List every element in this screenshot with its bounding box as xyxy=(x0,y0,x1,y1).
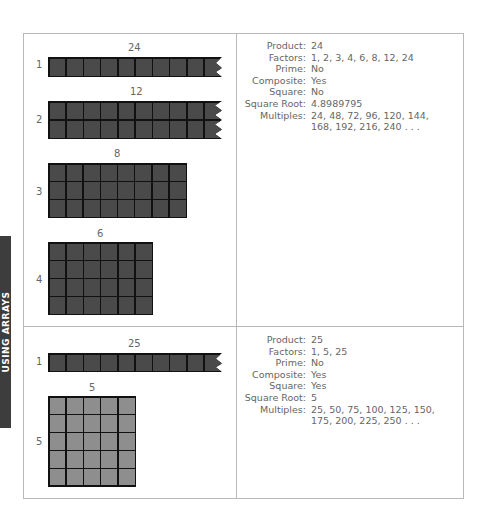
array-cell xyxy=(101,200,117,216)
square-root-value: 4.8989795 xyxy=(311,98,451,110)
array-cell xyxy=(101,415,117,431)
array-cell xyxy=(170,121,186,138)
array-4x6 xyxy=(48,242,153,315)
array-rows-label: 2 xyxy=(36,114,42,125)
array-cell xyxy=(50,165,66,181)
array-cell xyxy=(170,182,186,198)
array-cell xyxy=(136,261,152,277)
square-value: Yes xyxy=(311,380,451,392)
array-rows-label: 1 xyxy=(36,356,42,367)
array-cell xyxy=(67,103,83,120)
array-cell xyxy=(119,355,135,371)
array-cell xyxy=(50,355,66,371)
array-cell xyxy=(153,355,169,371)
array-cell xyxy=(84,59,100,76)
array-cell xyxy=(119,398,135,414)
array-cell xyxy=(118,200,134,216)
array-cell xyxy=(50,398,66,414)
array-cell xyxy=(101,398,117,414)
array-cell xyxy=(67,415,83,431)
array-cell xyxy=(84,261,100,277)
array-cell xyxy=(136,355,152,371)
array-rows-label: 1 xyxy=(36,59,42,70)
side-tab: USING ARRAYS xyxy=(0,236,11,428)
array-cell xyxy=(84,433,100,449)
array-cell xyxy=(188,103,204,120)
array-cell xyxy=(84,297,100,313)
array-cell xyxy=(170,200,186,216)
side-tab-label: USING ARRAYS xyxy=(1,291,11,372)
array-cell xyxy=(67,182,83,198)
factors-value: 1, 2, 3, 4, 6, 8, 12, 24 xyxy=(311,52,451,64)
array-rows-label: 3 xyxy=(36,186,42,197)
square-root-value: 5 xyxy=(311,392,451,404)
array-cell xyxy=(119,121,135,138)
array-cell xyxy=(119,103,135,120)
array-cell xyxy=(101,355,117,371)
product-label: Product: xyxy=(236,40,311,52)
array-cell xyxy=(50,244,66,260)
array-cell xyxy=(101,469,117,485)
multiples-value: 24, 48, 72, 96, 120, 144, 168, 192, 216,… xyxy=(311,110,451,133)
array-cell xyxy=(170,165,186,181)
array-cell xyxy=(135,200,151,216)
array-cell xyxy=(84,244,100,260)
prime-value: No xyxy=(311,63,451,75)
array-cell xyxy=(101,451,117,467)
multiples-label: Multiples: xyxy=(236,110,311,133)
array-cell xyxy=(136,297,152,313)
array-1x25 xyxy=(48,353,222,372)
product-label: Product: xyxy=(236,334,311,346)
array-cols-label: 25 xyxy=(128,338,141,349)
array-cell xyxy=(67,165,83,181)
array-cell xyxy=(101,433,117,449)
array-cell xyxy=(84,451,100,467)
array-cell xyxy=(119,433,135,449)
array-cols-label: 24 xyxy=(128,42,141,53)
array-cell xyxy=(118,182,134,198)
array-cell xyxy=(50,433,66,449)
factors-label: Factors: xyxy=(236,52,311,64)
array-cell xyxy=(136,59,152,76)
array-cell xyxy=(84,103,100,120)
array-cell xyxy=(153,59,169,76)
array-cols-label: 6 xyxy=(97,228,103,239)
array-cell xyxy=(188,355,204,371)
square-label: Square: xyxy=(236,380,311,392)
array-cell xyxy=(67,244,83,260)
array-cell xyxy=(84,415,100,431)
array-cell xyxy=(101,59,117,76)
array-cell xyxy=(101,297,117,313)
prime-value: No xyxy=(311,357,451,369)
factors-label: Factors: xyxy=(236,346,311,358)
composite-value: Yes xyxy=(311,75,451,87)
array-cell xyxy=(119,469,135,485)
array-cell xyxy=(136,244,152,260)
array-cell xyxy=(50,279,66,295)
section-divider xyxy=(23,326,464,327)
array-cell xyxy=(50,261,66,277)
array-cell xyxy=(67,200,83,216)
array-cell xyxy=(153,103,169,120)
array-cell xyxy=(101,244,117,260)
array-cell xyxy=(119,415,135,431)
array-2x12 xyxy=(48,101,222,139)
array-cols-label: 8 xyxy=(114,148,120,159)
square-root-label: Square Root: xyxy=(236,98,311,110)
square-label: Square: xyxy=(236,86,311,98)
array-cell xyxy=(101,121,117,138)
array-cell xyxy=(119,451,135,467)
multiples-label: Multiples: xyxy=(236,404,311,427)
array-cell xyxy=(153,121,169,138)
array-cell xyxy=(50,415,66,431)
array-cell xyxy=(84,200,100,216)
composite-label: Composite: xyxy=(236,369,311,381)
array-cell xyxy=(84,469,100,485)
array-cell xyxy=(84,279,100,295)
array-cols-label: 12 xyxy=(130,86,143,97)
composite-value: Yes xyxy=(311,369,451,381)
array-cell xyxy=(50,182,66,198)
array-cell xyxy=(153,182,169,198)
prime-label: Prime: xyxy=(236,357,311,369)
array-cell xyxy=(101,103,117,120)
